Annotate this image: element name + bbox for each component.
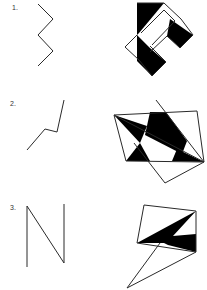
- diagram-canvas: [0, 0, 207, 290]
- figure-3-n-shape: [27, 204, 64, 267]
- figure-3: [27, 204, 196, 288]
- figure-1: [38, 3, 193, 76]
- figure-2: [27, 100, 204, 183]
- figure-1-black-regions: [137, 3, 193, 76]
- outline-stroke: [127, 243, 160, 288]
- black-region: [145, 112, 187, 154]
- black-region: [137, 3, 164, 35]
- figure-3-black-regions: [137, 211, 196, 252]
- black-region: [137, 211, 196, 252]
- black-region: [167, 19, 193, 48]
- black-region: [114, 115, 147, 143]
- outline-stroke: [127, 252, 196, 288]
- figure-2-polyline: [27, 100, 64, 150]
- figure-1-zigzag: [38, 4, 53, 66]
